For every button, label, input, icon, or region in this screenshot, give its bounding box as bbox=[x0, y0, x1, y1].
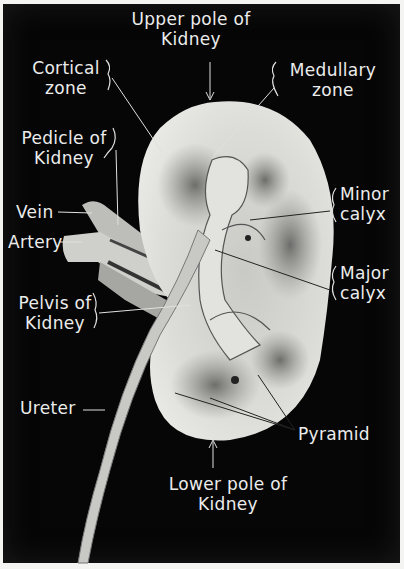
label-pedicle: Pedicle of Kidney bbox=[18, 128, 110, 168]
label-upper-pole: Upper pole of Kidney bbox=[130, 9, 252, 49]
label-major-calyx: Major calyx bbox=[340, 263, 389, 303]
label-vein: Vein bbox=[16, 202, 53, 222]
label-medullary-zone: Medullary zone bbox=[278, 60, 388, 100]
label-minor-calyx: Minor calyx bbox=[340, 184, 389, 224]
label-cortical-zone: Cortical zone bbox=[28, 58, 104, 98]
label-ureter: Ureter bbox=[20, 398, 75, 418]
label-artery: Artery bbox=[8, 232, 63, 252]
label-lower-pole: Lower pole of Kidney bbox=[160, 474, 296, 514]
label-pelvis: Pelvis of Kidney bbox=[16, 293, 94, 333]
label-pyramid: Pyramid bbox=[298, 424, 370, 444]
